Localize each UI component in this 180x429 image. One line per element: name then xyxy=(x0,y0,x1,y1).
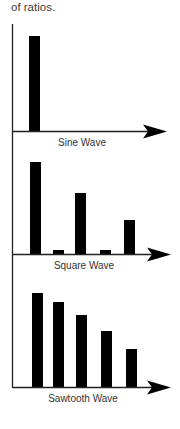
harmonic-bar xyxy=(75,193,86,254)
wave-label: Square Wave xyxy=(54,260,115,271)
wave-label: Sine Wave xyxy=(58,137,106,148)
wave-label: Sawtooth Wave xyxy=(48,393,118,404)
chart-sawtooth-wave: Sawtooth Wave xyxy=(13,293,172,404)
harmonic-bar xyxy=(124,220,135,254)
harmonic-bar xyxy=(100,250,111,254)
harmonic-bar xyxy=(30,162,41,254)
harmonic-bar xyxy=(76,315,87,387)
harmonic-bar xyxy=(53,302,64,387)
chart-sine-wave: Sine Wave xyxy=(13,36,168,148)
harmonic-bar xyxy=(32,293,43,387)
harmonic-bar xyxy=(126,349,137,387)
harmonic-bar xyxy=(101,331,112,387)
harmonic-bar xyxy=(29,36,40,131)
chart-square-wave: Square Wave xyxy=(13,162,172,271)
harmonic-spectra-diagram: Sine WaveSquare WaveSawtooth Wave xyxy=(0,0,180,429)
harmonic-bar xyxy=(53,250,64,254)
